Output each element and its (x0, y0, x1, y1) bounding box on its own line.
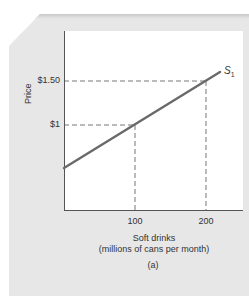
panel-top-band (35, 14, 249, 19)
x-axis-label: Soft drinks (133, 234, 176, 243)
panel-label: (a) (148, 261, 159, 270)
series-label-s1: S1 (224, 66, 235, 78)
x-tick-label-200: 200 (198, 217, 213, 226)
plot-area (64, 31, 243, 210)
series-label-main: S (224, 65, 231, 76)
series-label-sub: 1 (231, 71, 235, 78)
y-axis-label: Price (24, 83, 33, 104)
x-axis-sublabel: (millions of cans per month) (99, 245, 210, 254)
x-tick-label-100: 100 (127, 217, 142, 226)
y-tick-label-1: $1 (20, 120, 60, 129)
